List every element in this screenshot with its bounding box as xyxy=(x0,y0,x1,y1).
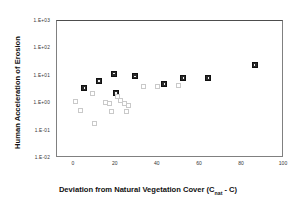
x-tick-label: 80 xyxy=(238,160,244,166)
data-point-open-squares xyxy=(141,84,146,89)
x-axis-title-tail: - C) xyxy=(222,185,237,194)
data-point-open-squares xyxy=(109,109,114,114)
y-tick-label: 1.E-02 xyxy=(35,155,50,160)
data-point-open-squares xyxy=(176,83,181,88)
y-tick-label: 1.E-01 xyxy=(35,127,50,132)
x-axis-title: Deviation from Natural Vegetation Cover … xyxy=(0,185,296,196)
x-tick-label: 60 xyxy=(196,160,202,166)
x-tick-label: 40 xyxy=(154,160,160,166)
x-axis-tick-labels: 020406080100 xyxy=(56,160,283,172)
data-point-open-squares xyxy=(124,109,129,114)
plot-area xyxy=(56,20,283,157)
y-axis-tick-labels: 1.E+031.E+021.E+011.E+001.E-011.E-02 xyxy=(0,0,54,209)
data-point-filled-squares xyxy=(180,75,186,81)
data-point-filled-squares xyxy=(205,75,211,81)
x-tick-label: 20 xyxy=(112,160,118,166)
scatter-chart: Human Acceleration of Erosion 1.E+031.E+… xyxy=(0,0,296,209)
data-point-open-squares xyxy=(92,121,97,126)
data-point-filled-squares xyxy=(132,73,138,79)
data-point-open-squares xyxy=(90,91,95,96)
data-point-open-squares xyxy=(155,84,160,89)
y-tick-label: 1.E+01 xyxy=(34,72,51,77)
data-point-filled-squares xyxy=(96,78,102,84)
data-point-open-squares xyxy=(73,99,78,104)
data-point-open-squares xyxy=(78,108,83,113)
y-tick-label: 1.E+02 xyxy=(34,45,51,50)
data-point-filled-squares xyxy=(252,62,258,68)
y-tick-label: 1.E+00 xyxy=(34,100,51,105)
data-point-open-squares xyxy=(126,103,131,108)
x-axis-title-main: Deviation from Natural Vegetation Cover … xyxy=(59,185,215,194)
x-tick-label: 0 xyxy=(71,160,74,166)
x-tick-label: 100 xyxy=(279,160,287,166)
data-point-open-squares xyxy=(107,101,112,106)
data-point-filled-squares xyxy=(161,81,167,87)
data-point-filled-squares xyxy=(81,85,87,91)
data-point-filled-squares xyxy=(111,71,117,77)
y-tick-label: 1.E+03 xyxy=(34,18,51,23)
